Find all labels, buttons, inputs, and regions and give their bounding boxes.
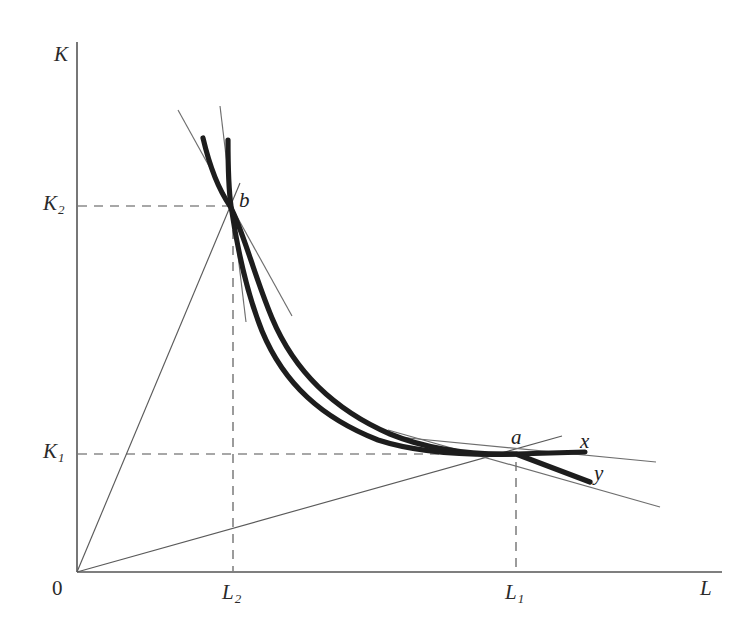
x-axis-label-text: L [700, 576, 712, 600]
y-tick-k1-base: K [43, 439, 57, 463]
curve-label-y-text: y [594, 461, 603, 485]
y-axis-label-text: K [54, 42, 68, 66]
y-tick-label-k1: K1 [43, 441, 64, 462]
x-tick-label-l2: L2 [222, 582, 240, 603]
x-tick-l1-subscript: 1 [518, 591, 525, 606]
isoquant-curve-y [228, 140, 590, 482]
tangent-line-y-at-a [388, 430, 660, 507]
expansion-rays-group [77, 183, 562, 572]
point-label-a-text: a [511, 425, 522, 449]
x-tick-l1-base: L [505, 580, 517, 604]
y-tick-k2-subscript: 2 [58, 202, 65, 217]
origin-label: 0 [52, 578, 63, 599]
curve-label-x-text: x [580, 429, 589, 453]
point-label-b-text: b [239, 188, 250, 212]
point-label-b: b [239, 190, 250, 211]
y-tick-k2-base: K [43, 191, 57, 215]
point-label-a: a [511, 427, 522, 448]
x-tick-l2-subscript: 2 [235, 591, 242, 606]
y-tick-label-k2: K2 [43, 193, 64, 214]
figure-canvas: K L 0 K2 K1 L2 L1 b a x y [0, 0, 754, 644]
axes-group [77, 42, 722, 572]
y-tick-k1-subscript: 1 [58, 450, 65, 465]
x-axis-label: L [700, 578, 712, 599]
tangents-at-a-group [388, 430, 660, 507]
curve-label-y: y [594, 463, 603, 484]
origin-label-text: 0 [52, 576, 63, 600]
x-tick-label-l1: L1 [505, 582, 523, 603]
isoquant-diagram-svg [0, 0, 754, 644]
curve-label-x: x [580, 431, 589, 452]
y-axis-label: K [54, 44, 68, 65]
x-tick-l2-base: L [222, 580, 234, 604]
isoquant-curve-x [203, 138, 585, 454]
ray-to-point-b [77, 183, 240, 572]
